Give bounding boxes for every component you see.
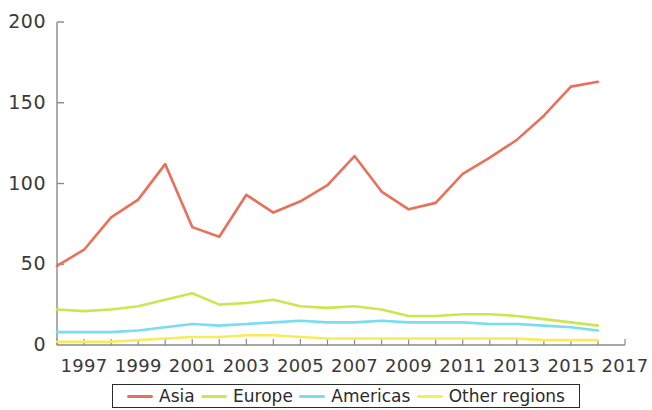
legend-swatch-icon: [127, 395, 153, 398]
legend-swatch-icon: [201, 395, 227, 398]
legend-label: Other regions: [449, 386, 565, 406]
legend-label: Americas: [331, 386, 410, 406]
chart-legend: AsiaEuropeAmericasOther regions: [112, 384, 580, 408]
legend-item-europe[interactable]: Europe: [201, 386, 293, 406]
legend-swatch-icon: [417, 395, 443, 398]
series-line-americas: [57, 321, 598, 332]
y-axis-tick-label: 0: [0, 333, 46, 355]
legend-item-other-regions[interactable]: Other regions: [417, 386, 565, 406]
legend-label: Europe: [233, 386, 293, 406]
y-axis-tick-label: 150: [0, 91, 46, 113]
y-axis-tick-label: 200: [0, 10, 46, 32]
series-line-asia: [57, 82, 598, 266]
x-axis-tick-label: 2017: [585, 355, 652, 376]
legend-label: Asia: [159, 386, 195, 406]
legend-item-americas[interactable]: Americas: [299, 386, 410, 406]
legend-swatch-icon: [299, 395, 325, 398]
series-line-europe: [57, 293, 598, 325]
y-axis-tick-label: 50: [0, 252, 46, 274]
legend-item-asia[interactable]: Asia: [127, 386, 195, 406]
y-axis-tick-label: 100: [0, 172, 46, 194]
